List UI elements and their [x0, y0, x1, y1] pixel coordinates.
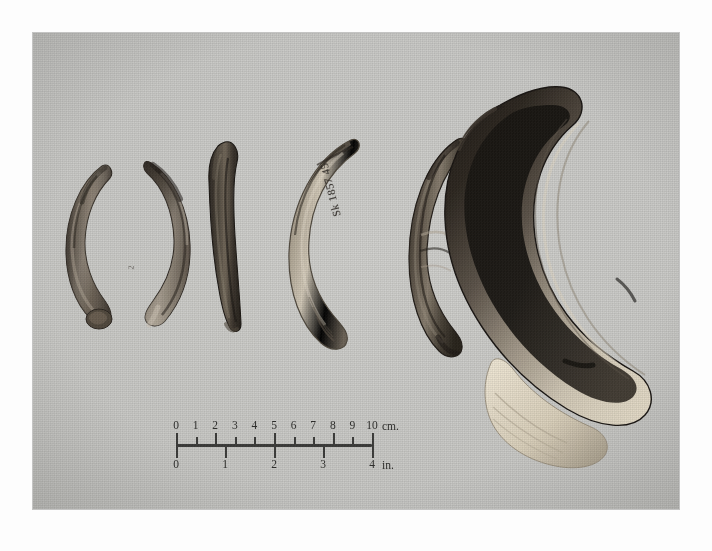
- cm-label-5: 5: [271, 420, 277, 431]
- in-label-1: 1: [222, 459, 228, 470]
- in-label-3: 3: [320, 459, 326, 470]
- cm-label-8: 8: [330, 420, 336, 431]
- cm-label-1: 1: [193, 420, 199, 431]
- cm-tick-8: [333, 433, 335, 447]
- cm-unit-label: cm.: [382, 420, 399, 432]
- photo-print: Sk 1857 45 2: [33, 33, 679, 509]
- cm-label-4: 4: [252, 420, 258, 431]
- specimen-3: [193, 138, 263, 343]
- in-tick-2: [274, 444, 276, 458]
- in-label-4: 4: [369, 459, 375, 470]
- photographic-plate: Sk 1857 45 2: [0, 0, 712, 551]
- in-label-2: 2: [271, 459, 277, 470]
- cm-label-10: 10: [366, 420, 378, 431]
- cm-tick-6: [294, 437, 296, 447]
- scale-bar: 0 1 2 3 4 5 6 7 8 9 10 cm. 0 1: [176, 421, 406, 477]
- in-tick-1: [225, 444, 227, 458]
- cm-label-2: 2: [212, 420, 218, 431]
- cm-tick-9: [352, 437, 354, 447]
- cm-label-7: 7: [310, 420, 316, 431]
- cm-tick-7: [313, 437, 315, 447]
- cm-tick-2: [215, 433, 217, 447]
- cm-tick-4: [254, 437, 256, 447]
- in-tick-4: [372, 444, 374, 458]
- cm-label-6: 6: [291, 420, 297, 431]
- cm-tick-3: [235, 437, 237, 447]
- cm-label-0: 0: [173, 420, 179, 431]
- cm-label-9: 9: [350, 420, 356, 431]
- specimen-6: [439, 63, 679, 483]
- in-label-0: 0: [173, 459, 179, 470]
- specimen-4: [271, 129, 391, 359]
- specimen-1-mark: 2: [126, 265, 135, 269]
- in-tick-0: [176, 444, 178, 458]
- in-tick-3: [323, 444, 325, 458]
- in-unit-label: in.: [382, 459, 394, 471]
- cm-label-3: 3: [232, 420, 238, 431]
- cm-tick-1: [196, 437, 198, 447]
